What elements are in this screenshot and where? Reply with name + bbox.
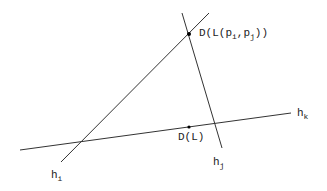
diagram-canvas: D(L(pi,pj)) D(L) hi hj hk bbox=[0, 0, 327, 191]
point-d-l-pi-pj bbox=[187, 32, 191, 36]
label-h-i: hi bbox=[51, 169, 62, 183]
label-h-k: hk bbox=[297, 107, 308, 121]
point-d-l bbox=[187, 125, 190, 128]
label-h-j: hj bbox=[213, 156, 224, 170]
line-h-k bbox=[20, 113, 291, 150]
line-drawing bbox=[0, 0, 327, 191]
label-d-l-pi-pj: D(L(pi,pj)) bbox=[199, 27, 268, 41]
label-d-l: D(L) bbox=[178, 131, 204, 143]
